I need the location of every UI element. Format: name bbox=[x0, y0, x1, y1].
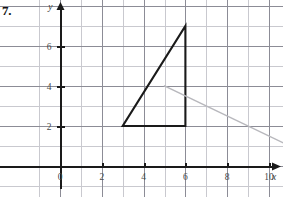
x-axis-arrowhead bbox=[272, 163, 281, 171]
x-tick-label-4: 4 bbox=[141, 172, 146, 182]
x-tick-label-6: 6 bbox=[183, 172, 188, 182]
image-triangle bbox=[165, 86, 284, 146]
y-tick-label-2: 2 bbox=[47, 122, 52, 132]
x-tick-label-2: 2 bbox=[99, 172, 104, 182]
axes-lines bbox=[0, 2, 281, 189]
x-tick-label-0: 0 bbox=[58, 172, 63, 182]
coordinate-plane: 0246810246xy bbox=[0, 0, 283, 197]
coordinate-plane-svg: 0246810246xy bbox=[0, 0, 283, 197]
y-tick-label-4: 4 bbox=[47, 82, 52, 92]
y-tick-label-6: 6 bbox=[47, 42, 52, 52]
preimage-triangle bbox=[123, 26, 186, 126]
graph-figure: 7. 0246810246xy bbox=[0, 0, 283, 197]
y-axis-name-label: y bbox=[47, 2, 53, 12]
x-tick-label-8: 8 bbox=[225, 172, 230, 182]
x-axis-name-label: x bbox=[271, 172, 277, 182]
